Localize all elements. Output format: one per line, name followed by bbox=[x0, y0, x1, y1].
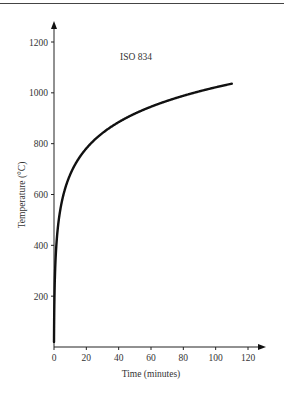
x-tick-label: 120 bbox=[241, 353, 256, 363]
x-tick-label: 60 bbox=[146, 353, 156, 363]
y-tick-label: 800 bbox=[34, 139, 49, 149]
x-tick-label: 40 bbox=[114, 353, 124, 363]
x-axis-label: Time (minutes) bbox=[122, 369, 181, 380]
x-tick-label: 80 bbox=[179, 353, 189, 363]
y-axis-arrow-icon bbox=[51, 21, 57, 29]
x-axis-arrow-icon bbox=[258, 344, 266, 350]
y-tick-label: 1200 bbox=[29, 38, 48, 48]
y-tick-label: 1000 bbox=[29, 88, 48, 98]
x-tick-label: 100 bbox=[209, 353, 224, 363]
y-tick-label: 600 bbox=[34, 190, 49, 200]
y-tick-label: 400 bbox=[34, 241, 49, 251]
y-axis-label: Temperature (°C) bbox=[17, 162, 28, 229]
chart-iso834: 02040608010012020040060080010001200 ISO … bbox=[0, 0, 284, 395]
curve-annotation: ISO 834 bbox=[120, 52, 152, 62]
x-tick-label: 0 bbox=[52, 353, 57, 363]
x-tick-label: 20 bbox=[82, 353, 92, 363]
iso834-curve bbox=[54, 84, 232, 342]
y-tick-label: 200 bbox=[34, 292, 49, 302]
